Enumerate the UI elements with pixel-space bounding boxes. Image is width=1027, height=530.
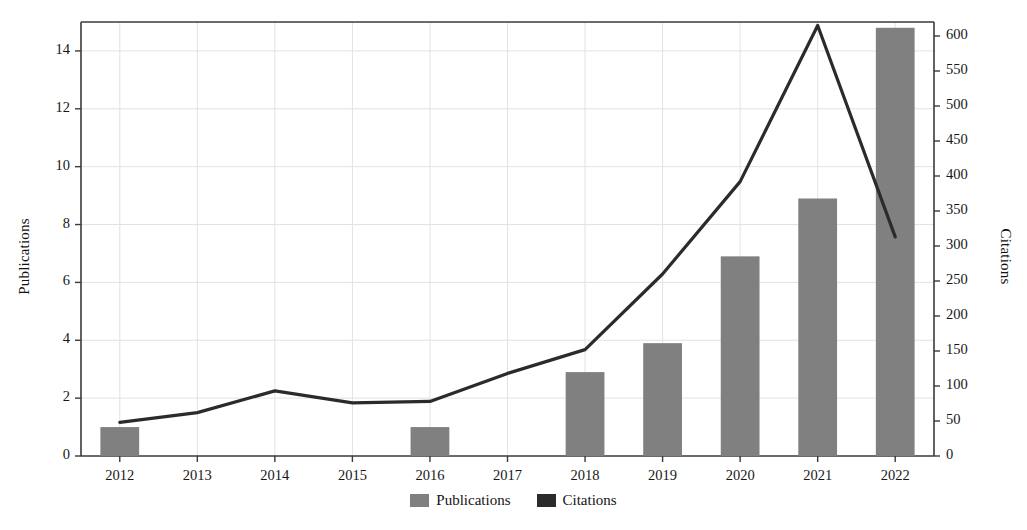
legend-swatch-icon [537,494,556,507]
bar-2016[interactable] [411,427,450,456]
x-tick-label-2014: 2014 [235,467,315,484]
chart-figure: Publications Citations 02468101214050100… [0,0,1027,530]
y-tick-label-right-150: 150 [946,341,1002,358]
y-tick-label-left-4: 4 [24,330,70,347]
y-tick-label-right-0: 0 [946,446,1002,463]
x-tick-label-2021: 2021 [778,467,858,484]
y-tick-label-left-6: 6 [24,272,70,289]
y-tick-label-left-8: 8 [24,215,70,232]
y-tick-label-left-0: 0 [24,446,70,463]
chart-legend: PublicationsCitations [0,492,1027,509]
x-tick-label-2019: 2019 [623,467,703,484]
bar-2020[interactable] [721,256,760,456]
x-tick-label-2016: 2016 [390,467,470,484]
x-tick-label-2015: 2015 [312,467,392,484]
x-tick-label-2022: 2022 [855,467,935,484]
x-tick-label-2020: 2020 [700,467,780,484]
bar-2019[interactable] [643,343,682,456]
y-tick-label-right-250: 250 [946,271,1002,288]
legend-swatch-icon [410,494,429,507]
bar-2012[interactable] [100,427,139,456]
x-tick-label-2012: 2012 [80,467,160,484]
legend-label: Publications [436,492,510,509]
y-tick-label-right-300: 300 [946,236,1002,253]
y-tick-label-right-550: 550 [946,61,1002,78]
legend-label: Citations [563,492,617,509]
x-tick-label-2018: 2018 [545,467,625,484]
y-tick-label-right-200: 200 [946,306,1002,323]
legend-item-citations[interactable]: Citations [537,492,617,509]
bar-2022[interactable] [876,28,915,456]
y-tick-label-left-2: 2 [24,388,70,405]
y-tick-label-right-600: 600 [946,26,1002,43]
y-tick-label-left-10: 10 [24,157,70,174]
chart-canvas [0,0,1027,530]
x-tick-label-2017: 2017 [468,467,548,484]
y-tick-label-right-50: 50 [946,411,1002,428]
x-tick-label-2013: 2013 [157,467,237,484]
y-tick-label-left-14: 14 [24,41,70,58]
y-tick-label-right-500: 500 [946,96,1002,113]
y-tick-label-left-12: 12 [24,99,70,116]
y-tick-label-right-350: 350 [946,201,1002,218]
legend-item-publications[interactable]: Publications [410,492,510,509]
bar-2018[interactable] [566,372,605,456]
y-tick-label-right-400: 400 [946,166,1002,183]
y-tick-label-right-450: 450 [946,131,1002,148]
bar-2021[interactable] [798,198,837,456]
y-tick-label-right-100: 100 [946,376,1002,393]
